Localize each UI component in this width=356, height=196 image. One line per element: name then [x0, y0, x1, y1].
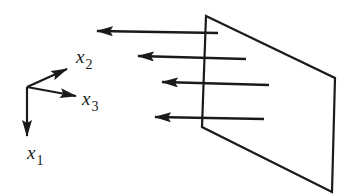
incident-arrow-2 [138, 56, 246, 59]
x3-axis-arrow [27, 87, 76, 96]
incident-arrow-3 [162, 82, 269, 85]
x2-label: x2 [75, 46, 92, 72]
diagram-canvas: x2 x3 x1 [0, 0, 356, 196]
x1-label: x1 [26, 142, 43, 168]
coordinate-axes [27, 69, 76, 136]
incident-arrow-1 [97, 31, 218, 33]
incident-arrow-4 [155, 117, 264, 119]
incident-arrows [97, 31, 269, 119]
x3-label: x3 [81, 88, 98, 114]
x2-axis-arrow [27, 69, 67, 87]
plane-surface [202, 16, 335, 192]
